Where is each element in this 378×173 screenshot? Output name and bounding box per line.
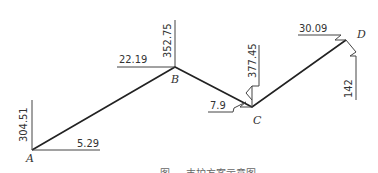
point-a-label: A (25, 152, 34, 165)
route-polyline (32, 40, 346, 150)
polyline-diagram: 304.51 5.29 A 352.75 22.19 B 377.45 7.9 … (0, 0, 378, 173)
d-horizontal-line (298, 35, 346, 40)
point-d-label: D (356, 28, 366, 41)
figure-caption: 图 … 支护方案示意图 (160, 167, 256, 173)
a-vertical-dim: 304.51 (17, 107, 30, 142)
a-horizontal-dim: 5.29 (77, 137, 99, 150)
b-vertical-dim: 352.75 (161, 23, 174, 58)
d-vertical-dim: 142 (342, 79, 355, 98)
c-horizontal-dim: 7.9 (210, 99, 226, 112)
b-horizontal-dim: 22.19 (119, 53, 147, 66)
point-b-label: B (170, 73, 179, 86)
c-vertical-dim: 377.45 (246, 43, 259, 78)
c-horizontal-line (233, 102, 252, 112)
point-c-label: C (253, 114, 262, 127)
d-horizontal-dim: 30.09 (299, 22, 327, 35)
